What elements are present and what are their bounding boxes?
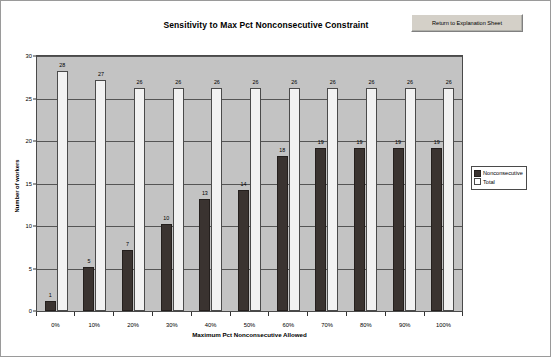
bar-total[interactable]: 26 [327, 88, 338, 311]
x-axis-tick-label: 50% [230, 313, 269, 333]
y-axis-tick-label: 0 [29, 308, 32, 314]
bar-value-label: 19 [434, 139, 440, 145]
bar-value-label: 5 [87, 258, 90, 264]
x-axis-tick-label: 20% [114, 313, 153, 333]
bar-value-label: 26 [368, 79, 374, 85]
y-axis-tick-label: 25 [26, 96, 32, 102]
bar-total[interactable]: 27 [95, 80, 106, 312]
bar-value-label: 26 [214, 79, 220, 85]
bar-value-label: 19 [356, 139, 362, 145]
y-axis-tick-label: 15 [26, 181, 32, 187]
x-axis-tick-label: 30% [152, 313, 191, 333]
y-axis-tick-label: 20 [26, 138, 32, 144]
y-axis-tick-label: 30 [26, 53, 32, 59]
bar-value-label: 13 [202, 190, 208, 196]
bar-value-label: 28 [59, 62, 65, 68]
bar-value-label: 14 [241, 181, 247, 187]
bar-nonconsecutive[interactable]: 18 [277, 156, 288, 311]
y-axis-tick-label: 10 [26, 223, 32, 229]
bar-group: 1326 [192, 56, 231, 311]
bar-value-label: 19 [395, 139, 401, 145]
bar-total[interactable]: 26 [211, 88, 222, 311]
bar-value-label: 26 [330, 79, 336, 85]
bar-total[interactable]: 26 [366, 88, 377, 311]
bar-nonconsecutive[interactable]: 19 [431, 148, 442, 312]
bar-value-label: 26 [175, 79, 181, 85]
bar-nonconsecutive[interactable]: 19 [393, 148, 404, 312]
bar-nonconsecutive[interactable]: 7 [122, 250, 133, 312]
bar-value-label: 26 [253, 79, 259, 85]
x-axis-tick-label: 70% [308, 313, 347, 333]
bar-group: 726 [114, 56, 153, 311]
legend-item-label: Total [483, 178, 495, 187]
bar-value-label: 26 [291, 79, 297, 85]
legend-swatch-total-icon [474, 178, 481, 185]
legend-item[interactable]: Nonconsecutive [474, 169, 523, 178]
x-axis-tick-label: 60% [269, 313, 308, 333]
bar-value-label: 27 [98, 71, 104, 77]
bar-nonconsecutive[interactable]: 10 [161, 224, 172, 311]
bar-total[interactable]: 26 [134, 88, 145, 311]
bar-total[interactable]: 26 [443, 88, 454, 311]
bar-nonconsecutive[interactable]: 1 [45, 301, 56, 312]
x-axis-tick-label: 80% [347, 313, 386, 333]
bar-group: 128 [37, 56, 76, 311]
x-axis-tick-label: 0% [36, 313, 75, 333]
bar-nonconsecutive[interactable]: 5 [83, 267, 94, 312]
legend-item[interactable]: Total [474, 178, 523, 187]
y-axis: Number of workers 051015202530 [1, 55, 36, 312]
bar-value-label: 1 [49, 292, 52, 298]
bar-total[interactable]: 26 [289, 88, 300, 311]
chart-legend: NonconsecutiveTotal [471, 166, 527, 190]
bar-group: 1026 [153, 56, 192, 311]
bar-value-label: 7 [126, 241, 129, 247]
bar-value-label: 26 [407, 79, 413, 85]
bar-value-label: 19 [318, 139, 324, 145]
bar-value-label: 26 [446, 79, 452, 85]
x-axis: 0%10%20%30%40%50%60%70%80%90%100% [36, 313, 463, 333]
y-axis-tick-label: 5 [29, 266, 32, 272]
bar-total[interactable]: 26 [173, 88, 184, 311]
x-axis-tick-label: 90% [385, 313, 424, 333]
bar-group: 1926 [385, 56, 424, 311]
bar-nonconsecutive[interactable]: 13 [199, 199, 210, 312]
plot-area: 1285277261026132614261826192619261926192… [36, 55, 463, 312]
x-axis-title: Maximum Pct Nonconsecutive Allowed [36, 331, 463, 338]
bar-nonconsecutive[interactable]: 19 [315, 148, 326, 312]
bar-series-container: 1285277261026132614261826192619261926192… [37, 56, 462, 311]
bar-nonconsecutive[interactable]: 14 [238, 190, 249, 311]
x-axis-tick-label: 40% [191, 313, 230, 333]
bar-group: 1926 [307, 56, 346, 311]
bar-value-label: 26 [137, 79, 143, 85]
bar-group: 1926 [423, 56, 462, 311]
bar-nonconsecutive[interactable]: 19 [354, 148, 365, 312]
bar-group: 1926 [346, 56, 385, 311]
x-axis-tick-label: 100% [424, 313, 463, 333]
bar-total[interactable]: 26 [250, 88, 261, 311]
bar-value-label: 10 [163, 215, 169, 221]
x-axis-tick-label: 10% [75, 313, 114, 333]
bar-group: 1426 [230, 56, 269, 311]
bar-group: 527 [76, 56, 115, 311]
bar-value-label: 18 [279, 147, 285, 153]
bar-group: 1826 [269, 56, 308, 311]
y-axis-title: Number of workers [14, 126, 20, 246]
bar-total[interactable]: 28 [57, 71, 68, 311]
return-to-explanation-sheet-button[interactable]: Return to Explanation Sheet [411, 14, 523, 32]
bar-total[interactable]: 26 [405, 88, 416, 311]
legend-item-label: Nonconsecutive [483, 169, 523, 178]
legend-swatch-nonconsecutive-icon [474, 170, 481, 177]
chart-frame: Sensitivity to Max Pct Nonconsecutive Co… [0, 0, 551, 357]
